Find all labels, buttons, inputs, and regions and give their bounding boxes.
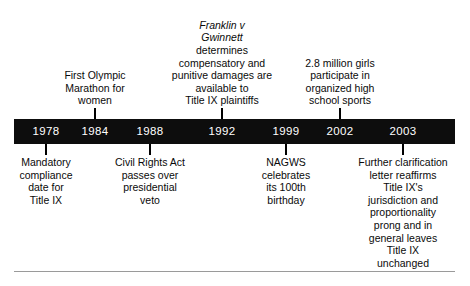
year-label-1984: 1984	[82, 122, 109, 141]
event-caption-1984: First OlympicMarathon forwomen	[45, 69, 145, 107]
event-caption-1988: Civil Rights Actpasses overpresidentialv…	[94, 156, 206, 206]
caption-line: available to	[159, 82, 285, 95]
event-caption-1992: Franklin vGwinnettdeterminescompensatory…	[159, 19, 285, 107]
caption-line: celebrates	[238, 169, 334, 182]
tick-mark-1978	[45, 144, 46, 155]
caption-line: Title IX plaintiffs	[159, 94, 285, 107]
caption-line: proportionality	[337, 206, 469, 219]
caption-line: NAGWS	[238, 156, 334, 169]
event-caption-2002: 2.8 million girlsparticipate inorganized…	[285, 57, 395, 107]
caption-line: Title IX's	[337, 181, 469, 194]
caption-line: its 100th	[238, 181, 334, 194]
caption-line: compliance	[0, 169, 94, 182]
year-label-1992: 1992	[209, 122, 236, 141]
caption-line: Title IX	[337, 244, 469, 257]
event-caption-1978: Mandatorycompliancedate forTitle IX	[0, 156, 94, 206]
tick-mark-1988	[149, 144, 150, 155]
caption-line: Civil Rights Act	[94, 156, 206, 169]
caption-line: participate in	[285, 69, 395, 82]
caption-line: date for	[0, 181, 94, 194]
caption-line: school sports	[285, 94, 395, 107]
caption-line: general leaves	[337, 232, 469, 245]
tick-mark-1984	[94, 108, 95, 119]
year-label-1978: 1978	[33, 122, 60, 141]
caption-line: women	[45, 94, 145, 107]
caption-line: veto	[94, 194, 206, 207]
caption-line: letter reaffirms	[337, 169, 469, 182]
year-label-1988: 1988	[137, 122, 164, 141]
caption-line: unchanged	[337, 257, 469, 270]
caption-line: Franklin v	[159, 19, 285, 32]
caption-line: First Olympic	[45, 69, 145, 82]
year-label-2003: 2003	[390, 122, 417, 141]
caption-line: compensatory and	[159, 57, 285, 70]
tick-mark-2003	[402, 144, 403, 155]
caption-line: jurisdiction and	[337, 194, 469, 207]
caption-line: punitive damages are	[159, 69, 285, 82]
caption-line: Further clarification	[337, 156, 469, 169]
caption-line: presidential	[94, 181, 206, 194]
caption-line: passes over	[94, 169, 206, 182]
caption-line: Marathon for	[45, 82, 145, 95]
caption-line: Gwinnett	[159, 31, 285, 44]
tick-mark-1999	[285, 144, 286, 155]
tick-mark-1992	[221, 108, 222, 119]
caption-line: Mandatory	[0, 156, 94, 169]
caption-line: organized high	[285, 82, 395, 95]
caption-line: birthday	[238, 194, 334, 207]
event-caption-1999: NAGWScelebratesits 100thbirthday	[238, 156, 334, 206]
caption-line: prong and in	[337, 219, 469, 232]
tick-mark-2002	[339, 108, 340, 119]
bottom-divider-rule	[14, 271, 455, 272]
caption-line: determines	[159, 44, 285, 57]
title-ix-timeline-figure: 1978198419881992199920022003Mandatorycom…	[0, 0, 470, 286]
year-label-2002: 2002	[327, 122, 354, 141]
caption-line: Title IX	[0, 194, 94, 207]
event-caption-2003: Further clarificationletter reaffirmsTit…	[337, 156, 469, 269]
caption-line: 2.8 million girls	[285, 57, 395, 70]
year-label-1999: 1999	[273, 122, 300, 141]
